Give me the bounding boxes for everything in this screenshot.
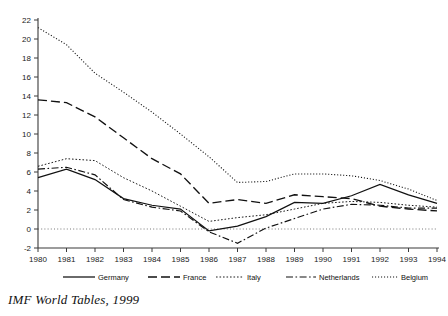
legend-item-germany[interactable]: Germany <box>63 273 129 282</box>
line-chart: -202468101214161820221980198119821983198… <box>0 0 448 290</box>
legend-label: Germany <box>98 273 129 282</box>
x-tick-label: 1986 <box>200 255 218 264</box>
x-tick-label: 1991 <box>343 255 361 264</box>
x-axis: 1980198119821983198419851986198719881989… <box>29 248 446 264</box>
series-line-italy <box>38 159 437 222</box>
y-tick-label: 0 <box>27 225 32 234</box>
x-tick-label: 1989 <box>286 255 304 264</box>
y-tick-label: -2 <box>24 244 32 253</box>
x-tick-label: 1990 <box>314 255 332 264</box>
y-tick-label: 16 <box>22 73 31 82</box>
y-axis: -20246810121416182022 <box>22 16 38 253</box>
y-tick-label: 20 <box>22 35 31 44</box>
legend-item-italy[interactable]: Italy <box>216 273 261 282</box>
y-tick-label: 6 <box>27 168 32 177</box>
x-tick-label: 1984 <box>143 255 161 264</box>
chart-legend: GermanyFranceItalyNetherlandsBelgium <box>63 273 428 282</box>
legend-item-france[interactable]: France <box>148 273 206 282</box>
chart-container: -202468101214161820221980198119821983198… <box>0 0 448 316</box>
series-group <box>38 28 437 244</box>
x-tick-label: 1982 <box>86 255 104 264</box>
source-note: IMF World Tables, 1999 <box>8 292 139 308</box>
legend-label: France <box>183 273 206 282</box>
series-line-netherlands <box>38 167 437 243</box>
x-tick-label: 1994 <box>428 255 446 264</box>
legend-item-netherlands[interactable]: Netherlands <box>286 273 360 282</box>
x-tick-label: 1987 <box>229 255 247 264</box>
y-tick-label: 8 <box>27 149 32 158</box>
series-line-germany <box>38 169 437 231</box>
y-tick-label: 4 <box>27 187 32 196</box>
x-tick-label: 1981 <box>58 255 76 264</box>
series-line-belgium <box>38 28 437 201</box>
y-tick-label: 18 <box>22 54 31 63</box>
legend-label: Belgium <box>401 273 428 282</box>
legend-item-belgium[interactable]: Belgium <box>372 273 428 282</box>
x-tick-label: 1993 <box>400 255 418 264</box>
legend-label: Italy <box>247 273 261 282</box>
x-tick-label: 1980 <box>29 255 47 264</box>
y-tick-label: 2 <box>27 206 32 215</box>
y-tick-label: 10 <box>22 130 31 139</box>
x-tick-label: 1985 <box>172 255 190 264</box>
y-tick-label: 22 <box>22 16 31 25</box>
y-tick-label: 12 <box>22 111 31 120</box>
x-tick-label: 1983 <box>115 255 133 264</box>
x-tick-label: 1992 <box>371 255 389 264</box>
x-tick-label: 1988 <box>257 255 275 264</box>
y-tick-label: 14 <box>22 92 31 101</box>
series-line-france <box>38 100 437 211</box>
legend-label: Netherlands <box>319 273 360 282</box>
